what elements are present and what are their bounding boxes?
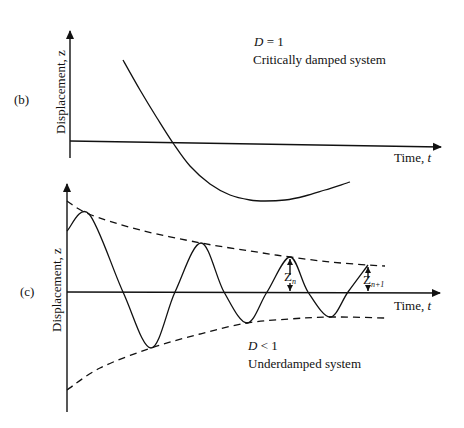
panel-b-x-axis [70,141,441,147]
panel-c-damping-ratio: D < 1 [247,338,278,353]
zn1-label: Zn+1 [363,272,384,289]
panel-b-label: (b) [14,92,29,107]
panel-b-x-axis-label: Time, t [394,150,431,165]
damping-figure: (b) Displacement, z Time, t D = 1 Critic… [0,0,464,428]
panel-c-x-axis-label: Time, t [394,298,431,313]
underdamped-curve [67,212,368,348]
zn1-amplitude-marker: Zn+1 [363,267,384,291]
panel-b-system-label: Critically damped system [253,52,386,67]
panel-c-underdamped: (c) Displacement, z Time, t Zn Zn+1 D < … [20,184,440,412]
zn-label: Zn [284,269,296,286]
lower-envelope-dashed [67,317,385,390]
panel-c-label: (c) [20,284,34,299]
upper-envelope-dashed [67,201,385,266]
panel-b-y-axis-label: Displacement, z [53,50,68,134]
panel-c-system-label: Underdamped system [248,356,361,371]
critically-damped-curve [123,60,350,201]
panel-c-y-axis-label: Displacement, z [49,248,64,332]
zn-amplitude-marker: Zn [284,259,296,291]
panel-b-damping-ratio: D = 1 [253,34,284,49]
panel-b-critically-damped: (b) Displacement, z Time, t D = 1 Critic… [14,31,441,201]
